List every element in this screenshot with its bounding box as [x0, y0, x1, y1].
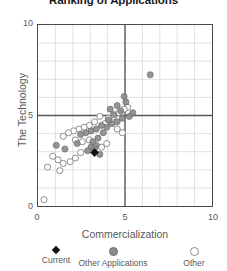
x-tick-label: 5 — [112, 212, 138, 222]
legend-item-other-applications[interactable]: Other Applications — [58, 247, 168, 268]
y-tick-label: 10 — [7, 18, 33, 28]
scatter-chart: Ranking of Applications 0510 0510 Commer… — [0, 0, 227, 271]
plot-area — [37, 24, 213, 207]
x-axis-title: Commercialization — [37, 228, 213, 240]
legend-label: Other — [165, 258, 223, 268]
chart-legend: Current Other Applications Other — [0, 247, 227, 271]
x-tick-label: 0 — [24, 212, 50, 222]
chart-title: Ranking of Applications — [0, 0, 227, 6]
filled-circle-icon — [109, 247, 118, 256]
legend-item-other[interactable]: Other — [165, 247, 223, 268]
legend-label: Other Applications — [58, 258, 168, 268]
x-tick-label: 10 — [200, 212, 226, 222]
data-points — [38, 25, 212, 206]
y-tick-label: 0 — [7, 201, 33, 211]
y-axis-title: The Technology — [16, 50, 28, 170]
open-circle-icon — [190, 247, 199, 256]
